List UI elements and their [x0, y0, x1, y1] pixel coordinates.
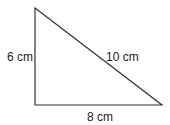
left-side-label: 6 cm [7, 51, 33, 63]
right-triangle [35, 8, 162, 105]
hypotenuse-label: 10 cm [106, 51, 139, 63]
base-label: 8 cm [87, 111, 113, 123]
